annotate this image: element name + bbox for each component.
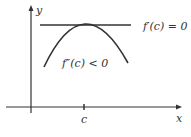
x-axis-label: x — [176, 112, 183, 125]
tangent-label: f′(c) = 0 — [142, 20, 188, 33]
x-axis-arrow-icon — [176, 105, 182, 110]
concavity-label: f″(c) < 0 — [61, 57, 108, 70]
y-axis-label: y — [35, 4, 43, 17]
y-axis-arrow-icon — [29, 5, 34, 11]
tick-label-c: c — [81, 113, 87, 126]
concavity-diagram: y x c f′(c) = 0 f″(c) < 0 — [0, 0, 191, 137]
